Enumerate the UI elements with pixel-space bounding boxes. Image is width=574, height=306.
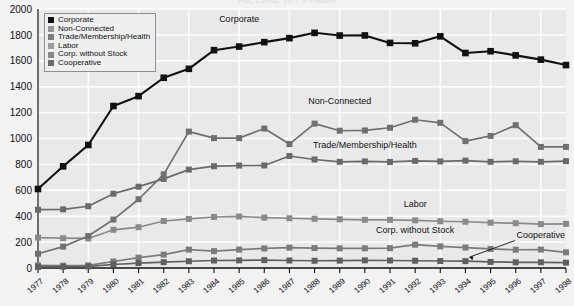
chart-container: PAC Counts: 1977 to Present 020040060080… [0,0,574,306]
series-marker [362,32,369,39]
series-marker [487,48,494,55]
series-marker [211,257,217,263]
series-marker [110,103,117,110]
x-axis-tick-label: 1980 [101,276,121,295]
series-annotation-label: Cooperative [517,230,566,240]
series-marker [563,221,569,227]
series-marker [161,259,167,265]
series-marker [312,216,318,222]
series-annotation-label: Trade/Membership/Health [313,140,417,150]
series-marker [312,245,318,251]
series-marker [261,162,267,168]
series-marker [462,50,469,57]
series-marker [311,30,318,37]
series-marker [286,257,292,263]
series-marker [136,184,142,190]
series-marker [387,159,393,165]
series-marker [236,213,242,219]
series-marker [186,258,192,264]
y-axis-tick-label: 800 [15,159,32,170]
x-axis-tick-label: 1979 [76,276,96,295]
legend-swatch-icon [48,43,54,49]
series-marker [186,167,192,173]
series-marker [161,171,167,177]
legend-swatch-icon [48,34,54,40]
series-annotation-label: Corporate [219,14,259,24]
series-marker [437,33,444,40]
series-marker [35,264,41,270]
y-axis-tick-label: 1600 [10,55,33,66]
series-marker [261,257,267,263]
x-axis-tick-label: 1995 [478,276,498,295]
series-marker [563,62,570,69]
series-marker [513,247,519,253]
series-marker [60,235,66,241]
y-axis-tick-label: 1400 [10,81,33,92]
series-marker [110,262,116,268]
series-marker [286,141,292,147]
series-marker [261,39,268,46]
y-axis-tick-label: 1000 [10,133,33,144]
series-marker [362,257,368,263]
y-axis-tick-label: 600 [15,185,32,196]
x-axis-tick-label: 1994 [453,276,473,295]
legend-swatch-icon [48,17,54,23]
series-marker [538,159,544,165]
series-marker [286,245,292,251]
series-marker [186,216,192,222]
series-marker [286,153,292,159]
series-marker [110,227,116,233]
series-marker [337,216,343,222]
x-axis-tick-label: 1983 [176,276,196,295]
series-marker [136,224,142,230]
legend-swatch-icon [48,52,54,58]
x-axis-tick-label: 1982 [151,276,171,295]
series-marker [135,93,142,100]
series-marker [437,158,443,164]
x-axis-tick-label: 1992 [403,276,423,295]
series-marker [60,264,66,270]
series-marker [437,218,443,224]
series-marker [35,235,41,241]
chart-title: PAC Counts: 1977 to Present [0,0,574,4]
series-marker [160,74,167,81]
series-marker [412,117,418,123]
series-marker [211,47,218,54]
series-marker [186,66,193,73]
series-marker [362,127,368,133]
legend-item-label: Cooperative [58,59,101,68]
series-marker [312,258,318,264]
series-annotation-label: Corp. without Stock [376,225,455,235]
y-axis-tick-label: 200 [15,237,32,248]
series-annotation-label: Labor [404,199,427,209]
series-marker [513,259,519,265]
series-marker [236,135,242,141]
series-marker [538,144,544,150]
series-marker [513,158,519,164]
series-marker [161,218,167,224]
series-marker [85,203,91,209]
series-marker [110,217,116,223]
series-marker [513,220,519,226]
series-marker [261,126,267,132]
x-axis-tick-label: 1987 [277,276,297,295]
series-marker [85,233,91,239]
series-marker [462,138,468,144]
series-marker [261,215,267,221]
series-marker [286,35,293,42]
series-marker [412,40,419,47]
series-marker [337,258,343,264]
series-marker [412,217,418,223]
series-marker [110,191,116,197]
series-marker [85,263,91,269]
series-marker [261,245,267,251]
series-marker [538,259,544,265]
chart-legend: CorporateNon-ConnectedTrade/Membership/H… [44,13,156,72]
series-marker [286,215,292,221]
series-marker [437,258,443,264]
x-axis-tick-label: 1997 [528,276,548,295]
series-marker [387,217,393,223]
legend-item[interactable]: Cooperative [45,59,155,68]
series-marker [462,158,468,164]
series-marker [60,163,67,170]
